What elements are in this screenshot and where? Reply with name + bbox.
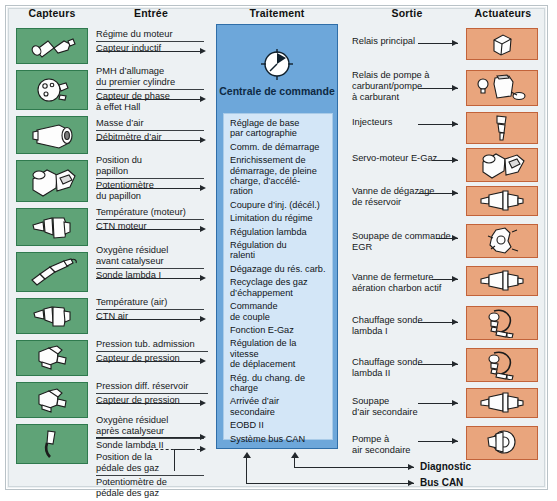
output-label-egr-valve: Soupape de commande EGR (352, 231, 464, 253)
diagram-canvas: Capteurs Entrée Traitement Sortie Actuat… (0, 0, 557, 501)
output-label-fuel-pump-relay: Relais de pompe à carburant/pompe à carb… (352, 70, 458, 103)
arrow-output-7 (452, 276, 458, 282)
column-header-input: Entrée (96, 7, 206, 19)
connector-sensor-10 (96, 437, 200, 438)
ecu-function: Comm. de démarrage (230, 142, 327, 152)
arrow-output-3 (452, 121, 458, 127)
sensor-image-accelerator-pedal-sensor[interactable] (16, 424, 88, 464)
sensor-divider (96, 130, 204, 131)
actuator-image-secondary-air-valve[interactable] (466, 388, 538, 418)
ecu-function: Rég. du chang. de charge (230, 373, 327, 394)
ecu-title: Centrale de commande (217, 85, 337, 97)
output-label-lambda-heater-1: Chauffage sonde lambda I (352, 315, 458, 337)
sensor-signal-label: Position de la pédale des gaz (96, 452, 204, 474)
inductive-speed-sensor-icon (28, 33, 76, 59)
arrow-sensor-9 (200, 400, 206, 406)
connector-sensor-5 (96, 229, 200, 230)
actuator-image-main-relay[interactable] (466, 28, 538, 60)
sensor-signal-label: Régime du moteur (96, 29, 204, 40)
connector-pedal-dashed (150, 449, 200, 450)
sensor-image-inductive-speed-sensor[interactable] (16, 28, 88, 64)
actuator-image-lambda-heater-2[interactable] (466, 348, 538, 382)
arrow-sensor-5 (200, 226, 206, 232)
charcoal-shutoff-valve-icon (477, 269, 527, 293)
sensor-divider (96, 351, 208, 352)
ecu-function: Fonction E-Gaz (230, 325, 327, 335)
sensor-image-throttle-potentiometer[interactable] (16, 160, 88, 202)
arrow-sensor-11 (200, 446, 206, 452)
sensor-divider (96, 89, 204, 90)
arrow-sensor-7 (200, 316, 206, 322)
bus-label-can: Bus CAN (420, 477, 463, 488)
sensor-signal-label: Pression diff. réservoir (96, 381, 208, 392)
sensor-text-lambda-probe-2: Oxygène résiduel après catalyseur Sonde … (96, 415, 204, 451)
actuator-image-fuel-pump-relay[interactable] (466, 70, 538, 106)
sensor-image-engine-temperature-sensor[interactable] (16, 208, 88, 246)
tank-pressure-sensor-icon (30, 386, 74, 414)
actuator-image-lambda-heater-1[interactable] (466, 306, 538, 340)
sensor-image-air-temperature-sensor[interactable] (16, 298, 88, 334)
actuator-image-egr-valve[interactable] (466, 224, 538, 258)
arrow-sensor-1 (200, 48, 206, 54)
sensor-divider (96, 178, 204, 179)
ecu-function: Régulation de la vitesse de déplacement (230, 338, 327, 369)
connector-can-riser (246, 458, 247, 484)
arrow-output-9 (452, 361, 458, 367)
sensor-divider (96, 309, 204, 310)
connector-sensor-3 (96, 140, 200, 141)
fuel-pump-relay-icon (475, 74, 529, 102)
connector-sensor-1 (96, 51, 200, 52)
actuator-image-charcoal-shutoff-valve[interactable] (466, 266, 538, 296)
arrow-sensor-3 (200, 137, 206, 143)
sensor-image-tank-pressure-sensor[interactable] (16, 382, 88, 418)
arrow-sensor-2 (200, 96, 206, 102)
ecu-function-list: Réglage de base par cartographie Comm. d… (223, 113, 333, 440)
output-label-charcoal-shutoff: Vanne de fermeture aération charbon acti… (352, 272, 464, 294)
connector-sensor-9 (96, 403, 200, 404)
output-label-lambda-heater-2: Chauffage sonde lambda II (352, 357, 458, 379)
main-relay-icon (488, 32, 516, 56)
arrow-output-4 (452, 157, 458, 163)
sensor-signal-label: Oxygène résiduel avant catalyseur (96, 245, 204, 267)
arrow-output-5 (452, 190, 458, 196)
arrow-output-10 (452, 400, 458, 406)
sensor-image-hall-phase-sensor[interactable] (16, 70, 88, 110)
ecu-chip-icon (217, 47, 337, 81)
egr-valve-icon (484, 226, 520, 256)
sensor-signal-label: Masse d’air (96, 118, 204, 129)
sensor-device-label: Capteur de phase à effet Hall (96, 91, 204, 113)
column-header-actuators: Actuateurs (466, 7, 540, 19)
connector-sensor-8 (96, 361, 200, 362)
air-mass-meter-icon (27, 121, 77, 149)
bus-label-diagnostic: Diagnostic (420, 461, 471, 472)
actuator-image-injector[interactable] (466, 112, 538, 144)
arrow-output-6 (452, 235, 458, 241)
sensor-signal-label: Température (moteur) (96, 207, 204, 218)
ecu-function: Réglage de base par cartographie (230, 118, 327, 139)
e-gas-servo-motor-icon (478, 151, 526, 179)
ecu-function: Commande de couple (230, 301, 327, 322)
output-label-secondary-air-pump: Pompe à air secondaire (352, 434, 458, 456)
arrow-sensor-10 (200, 434, 206, 440)
connector-sensor-6 (96, 278, 200, 279)
lambda-probe-icon (26, 258, 78, 286)
actuator-image-tank-vent-valve[interactable] (466, 186, 538, 216)
sensor-text-lambda-probe-1: Oxygène résiduel avant catalyseur Sonde … (96, 245, 204, 281)
sensor-device-label: Potentiomètre du papillon (96, 180, 204, 202)
ecu-block[interactable]: Centrale de commande Réglage de base par… (216, 24, 338, 449)
actuator-image-secondary-air-pump[interactable] (466, 426, 538, 460)
sensor-image-lambda-probe-1[interactable] (16, 252, 88, 292)
arrow-sensor-8 (200, 358, 206, 364)
output-label-e-gas-servo: Servo-moteur E-Gaz (352, 153, 462, 164)
lambda-heater-icon (480, 308, 524, 338)
ecu-function: Coupure d’inj. (décél.) (230, 200, 327, 210)
secondary-air-pump-icon (482, 428, 522, 458)
sensor-device-label: Potentiomètre de pédale des gaz (96, 477, 204, 499)
actuator-image-e-gas-servo-motor[interactable] (466, 148, 538, 182)
sensor-image-air-mass-meter[interactable] (16, 116, 88, 154)
connector-sensor-2 (96, 99, 200, 100)
sensor-image-manifold-pressure-sensor[interactable] (16, 340, 88, 376)
connector-can-run (246, 483, 414, 484)
ecu-function: Enrichissement de démarrage, de pleine c… (230, 155, 327, 197)
connector-diagnostic-run (294, 467, 414, 468)
